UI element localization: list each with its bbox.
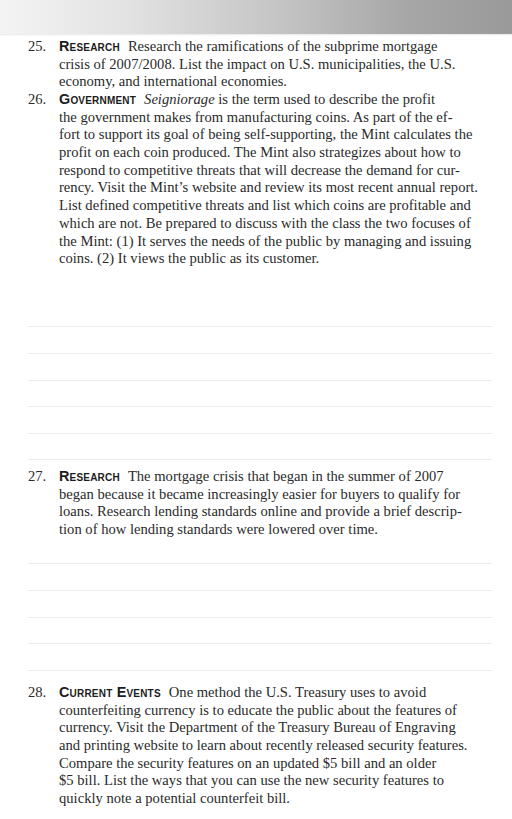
exercise-text: GovernmentSeigniorage is the term used t… bbox=[59, 91, 495, 268]
exercise-line: tion of how lending standards were lower… bbox=[59, 521, 495, 539]
header-band-shadow bbox=[0, 34, 512, 36]
exercise-line: rency. Visit the Mint’s website and revi… bbox=[59, 179, 495, 197]
answer-line[interactable] bbox=[28, 353, 492, 354]
exercise-line: the Mint: (1) It serves the needs of the… bbox=[59, 233, 495, 251]
exercise-line: profit on each coin produced. The Mint a… bbox=[59, 144, 495, 162]
text-line: The mortgage crisis that began in the su… bbox=[128, 468, 444, 484]
answer-line[interactable] bbox=[28, 459, 492, 460]
answer-line[interactable] bbox=[28, 590, 492, 591]
answer-line[interactable] bbox=[28, 326, 492, 327]
exercise-line: Compare the security features on an upda… bbox=[59, 755, 495, 773]
exercise-line: coins. (2) It views the public as its cu… bbox=[59, 250, 495, 268]
exercise-number: 25. bbox=[28, 38, 56, 56]
exercise-line: Current EventsOne method the U.S. Treasu… bbox=[59, 684, 495, 702]
exercise-line: counterfeiting currency is to educate th… bbox=[59, 702, 495, 720]
answer-line[interactable] bbox=[28, 563, 492, 564]
answer-line[interactable] bbox=[28, 406, 492, 407]
exercise-category: Government bbox=[59, 91, 136, 107]
exercise-line: and printing website to learn about rece… bbox=[59, 737, 495, 755]
exercise-line: quickly note a potential counterfeit bil… bbox=[59, 790, 495, 808]
exercise-line: GovernmentSeigniorage is the term used t… bbox=[59, 91, 495, 109]
text-line: is the term used to describe the profit bbox=[215, 91, 435, 107]
exercise-category: Current Events bbox=[59, 684, 161, 700]
text-line: Research the ramifications of the subpri… bbox=[128, 38, 438, 54]
exercise-text: ResearchThe mortgage crisis that began i… bbox=[59, 468, 495, 539]
exercise-number: 26. bbox=[28, 91, 56, 109]
exercise-line: List defined competitive threats and lis… bbox=[59, 197, 495, 215]
exercise-text: ResearchResearch the ramifications of th… bbox=[59, 38, 495, 91]
exercise-line: ResearchResearch the ramifications of th… bbox=[59, 38, 495, 56]
answer-line[interactable] bbox=[28, 380, 492, 381]
exercise-text: Current EventsOne method the U.S. Treasu… bbox=[59, 684, 495, 808]
term-seigniorage: Seigniorage bbox=[144, 91, 215, 107]
exercise-line: loans. Research lending standards online… bbox=[59, 503, 495, 521]
exercise-category: Research bbox=[59, 468, 120, 484]
header-gradient-band bbox=[0, 0, 512, 34]
answer-line[interactable] bbox=[28, 617, 492, 618]
answer-line[interactable] bbox=[28, 670, 492, 671]
text-line: One method the U.S. Treasury uses to avo… bbox=[169, 684, 426, 700]
exercise-line: began because it became increasingly eas… bbox=[59, 486, 495, 504]
answer-line[interactable] bbox=[28, 433, 492, 434]
answer-line[interactable] bbox=[28, 643, 492, 644]
exercise-number: 27. bbox=[28, 468, 56, 486]
exercise-line: crisis of 2007/2008. List the impact on … bbox=[59, 56, 495, 74]
exercise-line: which are not. Be prepared to discuss wi… bbox=[59, 215, 495, 233]
exercise-line: fort to support its goal of being self-s… bbox=[59, 126, 495, 144]
exercise-line: currency. Visit the Department of the Tr… bbox=[59, 719, 495, 737]
exercise-line: ResearchThe mortgage crisis that began i… bbox=[59, 468, 495, 486]
exercise-number: 28. bbox=[28, 684, 56, 702]
exercise-line: respond to competitive threats that will… bbox=[59, 162, 495, 180]
exercise-line: $5 bill. List the ways that you can use … bbox=[59, 772, 495, 790]
exercise-line: the government makes from manufacturing … bbox=[59, 109, 495, 127]
exercise-category: Research bbox=[59, 38, 120, 54]
exercise-line: economy, and international economies. bbox=[59, 73, 495, 91]
